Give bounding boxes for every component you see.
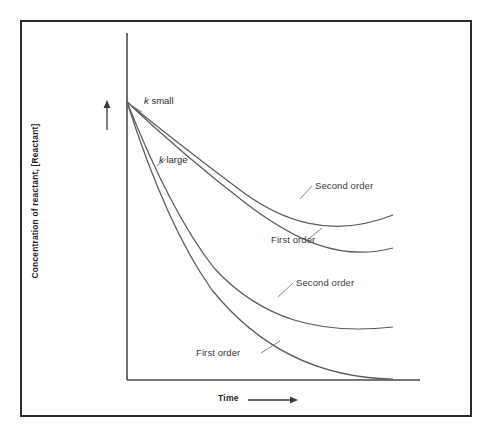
y-axis-arrow-head (104, 100, 111, 108)
curve-label-second-order-k-large: Second order (296, 277, 354, 288)
leader-second-order-k-large (278, 283, 293, 297)
annotation-k-large: k large (159, 154, 188, 165)
curve-label-first-order-k-large: First order (196, 347, 240, 358)
curve-label-first-order-k-small: First order (271, 234, 315, 245)
k-small-suffix: small (149, 95, 174, 106)
y-axis-label: Concentration of reactant, [Reactant] (30, 106, 40, 296)
annotation-k-small: k small (144, 95, 174, 106)
curve-label-second-order-k-small: Second order (315, 180, 373, 191)
k-large-suffix: large (164, 154, 188, 165)
curve-first-order-k-large (127, 102, 393, 379)
curve-second-order-k-large (127, 102, 393, 329)
curve-first-order-k-small (127, 102, 393, 252)
figure-container: k small k large Second order First order… (0, 0, 496, 439)
x-axis-arrow-head (290, 397, 298, 404)
plot-area (0, 0, 496, 439)
leader-second-order-k-small (300, 186, 312, 199)
x-axis-label: Time (218, 393, 239, 403)
